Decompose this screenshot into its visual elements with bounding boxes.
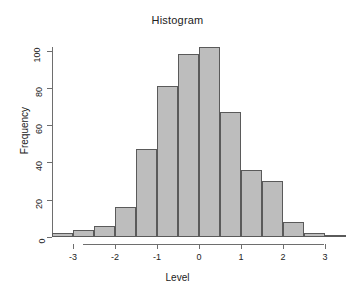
x-axis-tick-label: 1 [228,252,254,262]
x-axis-tick-label: -2 [102,252,128,262]
histogram-bar [262,181,283,237]
y-axis-tick [47,88,52,89]
x-axis-tick [115,244,116,249]
histogram-bar [199,47,220,237]
x-axis-tick-label: -1 [144,252,170,262]
x-axis-title: Level [0,272,355,283]
histogram-bar [325,235,346,237]
histogram-bar [157,86,178,237]
x-axis-tick [283,244,284,249]
x-axis-tick [325,244,326,249]
histogram-bar [73,230,94,237]
x-axis-tick-label: 0 [186,252,212,262]
histogram-bar [52,233,73,237]
histogram-bar [220,112,241,237]
histogram-bar [94,226,115,237]
histogram-bar [304,233,325,237]
y-axis-tick [47,51,52,52]
y-axis-tick-label: 60 [22,118,44,132]
histogram-bar [283,222,304,237]
y-axis-tick-label: 20 [22,193,44,207]
x-axis-line [83,244,324,245]
y-axis-tick [47,200,52,201]
histogram-bar [178,54,199,237]
histogram-bar [136,149,157,237]
x-axis-tick [241,244,242,249]
y-axis-tick-label: 80 [22,81,44,95]
y-axis-tick [47,237,52,238]
y-axis-tick-label: 40 [22,155,44,169]
histogram-bar [241,170,262,237]
y-axis-tick-label: 100 [22,44,44,58]
chart-title: Histogram [0,14,355,26]
x-axis-tick [73,244,74,249]
y-axis-tick [47,125,52,126]
x-axis-tick [199,244,200,249]
histogram-bar [115,207,136,237]
x-axis-tick-label: 2 [270,252,296,262]
y-axis-tick-label: 0 [22,230,44,244]
x-axis-tick-label: -3 [60,252,86,262]
histogram-plot: Histogram Frequency Level 020406080100-3… [0,0,355,293]
plot-area [52,47,350,237]
y-axis-tick [47,162,52,163]
x-axis-tick-label: 3 [312,252,338,262]
x-axis-tick [157,244,158,249]
